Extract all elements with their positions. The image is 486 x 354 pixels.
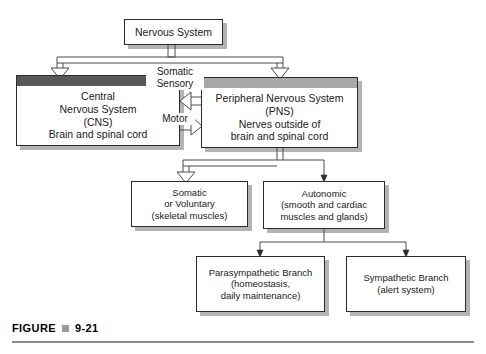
edge-nervous-system-split [57, 45, 283, 68]
edge-label-motor: Motor [155, 113, 195, 125]
edge-label-somatic-sensory: Somatic Sensory [146, 66, 204, 90]
diagram-canvas: Nervous System Central Nervous System (C… [0, 0, 486, 354]
node-autonomic-label: Autonomic (smooth and cardiac muscles an… [264, 182, 384, 228]
node-pns[interactable]: Peripheral Nervous System (PNS) Nerves o… [201, 77, 358, 148]
node-pns-header-bar [202, 78, 357, 88]
caption-divider-rule [12, 341, 474, 343]
figure-label: FIGURE [12, 322, 56, 334]
node-somatic-label: Somatic or Voluntary (skeletal muscles) [132, 182, 247, 226]
node-autonomic[interactable]: Autonomic (smooth and cardiac muscles an… [263, 181, 385, 229]
node-nervous-system-label: Nervous System [125, 20, 222, 44]
edge-autonomic-branch [260, 229, 406, 250]
node-somatic[interactable]: Somatic or Voluntary (skeletal muscles) [131, 181, 248, 227]
edge-pns-branch [183, 148, 324, 175]
node-parasympathetic-label: Parasympathetic Branch (homeostasis, dai… [197, 257, 324, 311]
edge-somatic-sensory [191, 97, 201, 105]
node-nervous-system[interactable]: Nervous System [124, 19, 223, 45]
arrowhead-hollow-left-cns [180, 92, 191, 110]
node-pns-label: Peripheral Nervous System (PNS) Nerves o… [202, 88, 357, 147]
node-sympathetic-label: Sympathetic Branch (alert system) [347, 257, 465, 311]
figure-caption: FIGURE 9-21 [12, 322, 99, 334]
figure-number: 9-21 [75, 322, 99, 334]
square-bullet-icon [62, 325, 69, 332]
node-parasympathetic[interactable]: Parasympathetic Branch (homeostasis, dai… [196, 256, 325, 312]
node-sympathetic[interactable]: Sympathetic Branch (alert system) [346, 256, 466, 312]
